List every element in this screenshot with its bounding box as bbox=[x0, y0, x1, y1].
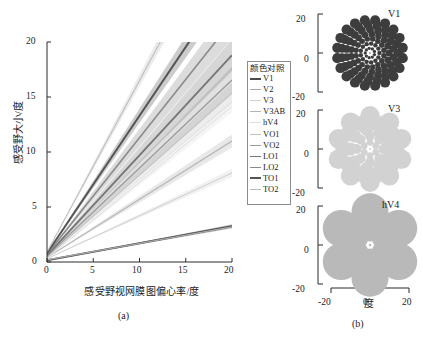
legend-swatch-icon bbox=[250, 145, 261, 146]
rf-dot bbox=[392, 129, 412, 149]
rf-dot bbox=[335, 63, 345, 73]
legend-item-label: V3 bbox=[263, 96, 273, 105]
hv4-ytick-20: 20 bbox=[296, 205, 306, 215]
rf-dot bbox=[388, 71, 398, 81]
rf-dot bbox=[365, 54, 368, 57]
legend-item-to1[interactable]: TO1 bbox=[250, 173, 290, 184]
legend-item-v3[interactable]: V3 bbox=[250, 95, 290, 106]
legend-swatch-icon bbox=[250, 89, 261, 90]
figure-root: 20 15 10 5 0 0 5 10 15 20 感受野视网膜图偏心率/度 感… bbox=[0, 0, 423, 341]
v1-ytick-0: 0 bbox=[304, 54, 309, 64]
panel-a-xlabel: 感受野视网膜图偏心率/度 bbox=[47, 283, 237, 298]
rf-dot bbox=[332, 43, 342, 53]
ytick-15: 15 bbox=[26, 91, 36, 101]
panel-a: 20 15 10 5 0 0 5 10 15 20 感受野视网膜图偏心率/度 感… bbox=[0, 0, 250, 341]
rf-dot bbox=[360, 172, 380, 192]
rf-dot bbox=[341, 166, 361, 186]
legend-item-label: LO1 bbox=[263, 152, 279, 161]
rf-dot bbox=[370, 15, 380, 25]
v1-ytick-20: 20 bbox=[296, 14, 306, 24]
caption-b: (b) bbox=[352, 318, 364, 329]
legend-item-lo2[interactable]: LO2 bbox=[250, 162, 290, 173]
panel-b-plot bbox=[290, 0, 423, 341]
series-layer bbox=[47, 0, 232, 260]
xtick-20: 20 bbox=[224, 265, 234, 275]
legend-item-v3ab[interactable]: V3AB bbox=[250, 106, 290, 117]
legend-item-label: V2 bbox=[263, 85, 273, 94]
rf-dot bbox=[398, 43, 408, 53]
ytick-5: 5 bbox=[32, 201, 37, 211]
legend-swatch-icon bbox=[250, 100, 261, 101]
rf-dot bbox=[369, 41, 373, 45]
rf-dot bbox=[341, 24, 351, 34]
series-line-v3 bbox=[47, 173, 232, 259]
rf-dot bbox=[341, 112, 361, 131]
rf-dot bbox=[368, 56, 371, 59]
legend-swatch-icon bbox=[250, 156, 261, 157]
legend-item-hv4[interactable]: hV4 bbox=[250, 117, 290, 128]
legend-item-v1[interactable]: V1 bbox=[250, 73, 290, 84]
rf-dot bbox=[380, 166, 400, 186]
hv4-ytick-0: 0 bbox=[304, 245, 309, 255]
legend-swatch-icon bbox=[250, 134, 261, 135]
rf-dot bbox=[369, 244, 371, 246]
series-line-vo2 bbox=[47, 80, 232, 256]
ytick-20: 20 bbox=[26, 36, 36, 46]
confidence-band bbox=[47, 39, 232, 255]
subplot-y-axis bbox=[318, 110, 323, 188]
rf-dot bbox=[380, 18, 390, 28]
rf-dot bbox=[365, 48, 368, 51]
legend-swatch-icon bbox=[250, 167, 261, 168]
rf-dot bbox=[369, 60, 373, 64]
legend-item-label: hV4 bbox=[263, 118, 278, 127]
subplot-y-axis bbox=[318, 206, 323, 284]
rf-dot bbox=[323, 243, 360, 280]
xtick-10: 10 bbox=[132, 265, 142, 275]
rf-dot bbox=[380, 112, 400, 131]
rf-dot bbox=[373, 50, 376, 53]
rf-dot bbox=[350, 77, 360, 87]
v1-ytick-m20: -20 bbox=[292, 92, 305, 102]
rf-dot bbox=[332, 53, 342, 63]
legend-swatch-icon bbox=[250, 177, 261, 179]
subplot-title-v3: V3 bbox=[388, 103, 400, 114]
rf-dot bbox=[360, 106, 380, 126]
legend-swatch-icon bbox=[250, 189, 261, 190]
rf-dot bbox=[369, 148, 371, 150]
v3-ytick-20: 20 bbox=[296, 109, 306, 119]
v3-ytick-0: 0 bbox=[304, 149, 309, 159]
rf-dot bbox=[380, 77, 390, 87]
rf-dot bbox=[398, 53, 408, 63]
panel-b-xlabel: 度 bbox=[314, 295, 423, 310]
rf-dot bbox=[394, 33, 404, 43]
legend-item-vo2[interactable]: VO2 bbox=[250, 140, 290, 151]
rf-dot bbox=[361, 45, 365, 49]
caption-a: (a) bbox=[118, 310, 129, 321]
rf-dot bbox=[335, 33, 345, 43]
rf-dot bbox=[341, 71, 351, 81]
rf-dot bbox=[369, 52, 370, 53]
ytick-10: 10 bbox=[26, 146, 36, 156]
subplot-title-v1: V1 bbox=[388, 8, 400, 19]
subplot-title-hv4: hV4 bbox=[382, 199, 399, 210]
series-line-lo2 bbox=[47, 21, 232, 254]
legend-item-label: VO2 bbox=[263, 141, 280, 150]
legend-item-label: LO2 bbox=[263, 163, 279, 172]
legend-box[interactable]: 颜色对照 V1V2V3V3ABhV4VO1VO2LO1LO2TO1TO2 bbox=[247, 61, 291, 205]
legend-item-label: VO1 bbox=[263, 130, 280, 139]
rf-dot bbox=[350, 18, 360, 28]
legend-item-label: TO1 bbox=[263, 174, 278, 183]
xtick-15: 15 bbox=[178, 265, 188, 275]
rf-dot bbox=[364, 60, 368, 64]
legend-item-v2[interactable]: V2 bbox=[250, 84, 290, 95]
legend-item-to2[interactable]: TO2 bbox=[250, 184, 290, 195]
rf-dot bbox=[329, 149, 349, 169]
legend-swatch-icon bbox=[250, 111, 261, 112]
rf-dot bbox=[360, 15, 370, 25]
legend-item-vo1[interactable]: VO1 bbox=[250, 128, 290, 139]
legend-item-lo1[interactable]: LO1 bbox=[250, 151, 290, 162]
hv4-ytick-m20: -20 bbox=[292, 284, 305, 294]
rf-dot bbox=[377, 51, 381, 55]
rf-dot bbox=[392, 149, 412, 169]
legend-swatch-icon bbox=[250, 78, 261, 80]
